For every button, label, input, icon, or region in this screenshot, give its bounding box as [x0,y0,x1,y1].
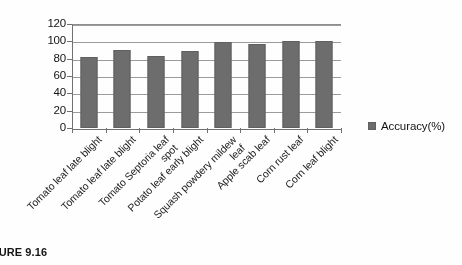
bar-series-accuracy [72,24,341,128]
x-axis-label: Tomato leaf late blight [59,134,138,213]
bar [282,41,299,128]
x-tick [106,128,107,133]
bar [181,51,198,128]
x-axis-label: Tomato leaf late blight [26,134,105,213]
x-axis-label-line: leaf [160,142,247,229]
bar [316,41,333,128]
bar-slot [173,24,207,128]
chart-legend: Accuracy(%) [368,120,445,132]
y-tick-label-120: 120 [6,18,66,30]
y-tick-label-60: 60 [6,70,66,82]
x-tick [274,128,275,133]
x-axis-label: Corn rust leaf [254,134,306,186]
x-axis-label: Squash powdery mildewleaf [152,134,247,229]
y-tick-label-20: 20 [6,105,66,117]
y-tick-label-80: 80 [6,53,66,65]
x-axis-label-line: Apple scab leaf [214,133,272,191]
x-tick [240,128,241,133]
bar [148,56,165,128]
x-axis-label-line: Corn rust leaf [254,133,306,185]
legend-swatch-accuracy [368,122,376,130]
figure-bar-chart: 020406080100120 Tomato leaf late blightT… [0,0,462,265]
legend-label-accuracy: Accuracy(%) [381,120,445,132]
bar-slot [207,24,241,128]
x-axis-label-line: Squash powdery mildew [151,133,238,220]
x-axis-label-line: spot [105,142,180,217]
bar-slot [307,24,341,128]
bar-slot [72,24,106,128]
x-axis-label-line: Potato leaf early blight [125,133,205,213]
x-tick [72,128,73,133]
bar-slot [240,24,274,128]
figure-caption: FIGURE 9.16 [0,246,47,258]
x-axis-label-line: Corn leaf blight [282,133,339,190]
x-axis-label: Apple scab leaf [215,134,273,192]
bar [80,57,97,128]
y-tick-label-0: 0 [6,122,66,134]
x-tick [207,128,208,133]
y-tick-label-100: 100 [6,35,66,47]
bar-slot [139,24,173,128]
x-axis-label-line: Tomato Septoria leaf [96,133,171,208]
bar [114,50,131,128]
x-axis-label-line: Tomato leaf late blight [59,133,138,212]
bar-slot [106,24,140,128]
x-axis-label-line: Tomato leaf late blight [25,133,104,212]
y-tick-label-40: 40 [6,87,66,99]
x-tick [139,128,140,133]
x-axis-label: Potato leaf early blight [125,134,205,214]
bar [215,42,232,128]
x-tick [341,128,342,133]
bar [248,44,265,128]
x-axis-label: Tomato Septoria leafspot [97,134,180,217]
x-tick [173,128,174,133]
bar-slot [274,24,308,128]
x-tick [307,128,308,133]
x-axis-label: Corn leaf blight [283,134,340,191]
